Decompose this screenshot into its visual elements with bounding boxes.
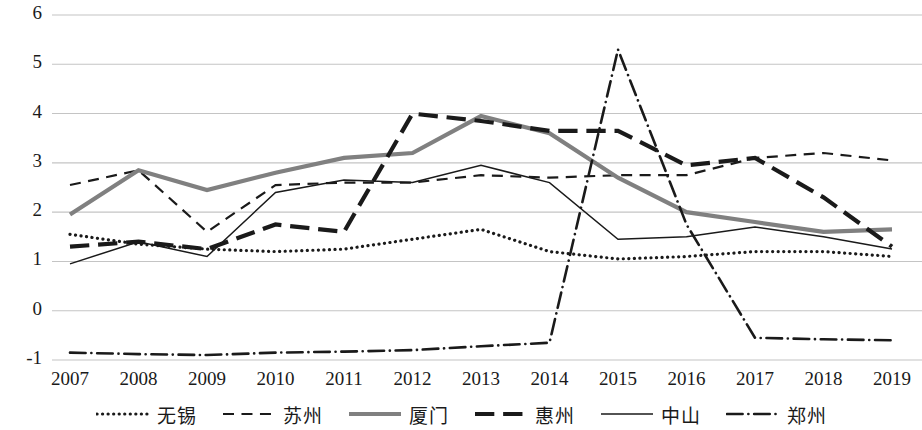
x-axis-tick-label: 2007 — [35, 368, 105, 390]
x-axis-tick-label: 2009 — [172, 368, 242, 390]
x-axis-tick-label: 2014 — [515, 368, 585, 390]
series-line-2 — [70, 116, 892, 232]
y-axis-tick-label: 1 — [8, 248, 42, 270]
gridlines — [52, 15, 922, 360]
legend-swatch-icon — [474, 407, 528, 421]
y-axis-tick-label: 3 — [8, 150, 42, 172]
legend-label: 郑州 — [787, 401, 826, 428]
x-axis-tick-label: 2008 — [104, 368, 174, 390]
x-axis-tick-label: 2019 — [857, 368, 922, 390]
legend-item-5[interactable]: 郑州 — [726, 401, 826, 428]
legend-item-2[interactable]: 厦门 — [348, 401, 448, 428]
y-axis-tick-label: 4 — [8, 101, 42, 123]
legend-swatch-icon — [222, 407, 276, 421]
legend-swatch-icon — [726, 407, 780, 421]
legend-label: 厦门 — [409, 401, 448, 428]
y-axis-tick-label: 2 — [8, 199, 42, 221]
x-axis-tick-label: 2017 — [720, 368, 790, 390]
x-axis-tick-label: 2016 — [652, 368, 722, 390]
line-chart: 6543210-1 200720082009201020112012201320… — [0, 0, 922, 430]
legend-label: 苏州 — [283, 401, 322, 428]
x-axis-tick-label: 2012 — [378, 368, 448, 390]
legend-label: 无锡 — [157, 401, 196, 428]
legend-swatch-icon — [96, 407, 150, 421]
legend-swatch-icon — [600, 407, 654, 421]
series-lines — [70, 50, 892, 356]
x-axis-tick-label: 2011 — [309, 368, 379, 390]
y-axis-tick-label: -1 — [8, 347, 42, 369]
legend-item-4[interactable]: 中山 — [600, 401, 700, 428]
x-axis-tick-label: 2013 — [446, 368, 516, 390]
y-axis-tick-label: 6 — [8, 2, 42, 24]
plot-area — [0, 0, 922, 430]
legend-item-0[interactable]: 无锡 — [96, 401, 196, 428]
legend-item-1[interactable]: 苏州 — [222, 401, 322, 428]
series-line-5 — [70, 50, 892, 356]
y-axis-tick-label: 5 — [8, 51, 42, 73]
legend-swatch-icon — [348, 407, 402, 421]
series-line-0 — [70, 229, 892, 259]
x-axis-tick-label: 2018 — [789, 368, 859, 390]
x-axis-tick-label: 2010 — [241, 368, 311, 390]
x-axis-tick-label: 2015 — [583, 368, 653, 390]
y-axis-tick-label: 0 — [8, 298, 42, 320]
legend-label: 惠州 — [535, 401, 574, 428]
legend-label: 中山 — [661, 401, 700, 428]
legend-item-3[interactable]: 惠州 — [474, 401, 574, 428]
chart-legend: 无锡苏州厦门惠州中山郑州 — [0, 398, 922, 430]
